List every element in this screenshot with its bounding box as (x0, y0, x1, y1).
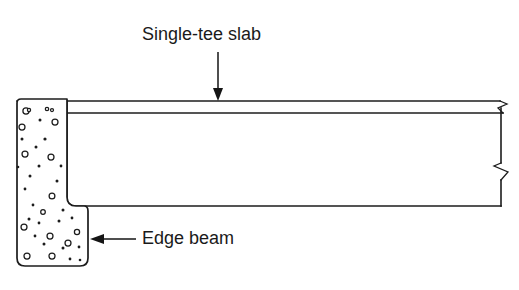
aggregate-dot (43, 137, 46, 140)
aggregate-ring (27, 108, 30, 111)
diagram-canvas: Single-tee slab Edge beam (0, 0, 519, 290)
aggregate-ring (48, 154, 54, 160)
break-kink-bottom (494, 163, 508, 180)
aggregate-ring (45, 107, 48, 110)
aggregate-dot (62, 209, 65, 212)
aggregate-ring (41, 210, 46, 215)
aggregate-dot (34, 235, 37, 238)
label-edge-beam: Edge beam (142, 228, 234, 248)
slab-leader-annotation (213, 52, 223, 101)
break-kink-top (498, 101, 507, 113)
label-single-tee-slab: Single-tee slab (142, 24, 261, 44)
aggregate-ring (47, 233, 53, 239)
aggregate-dot (78, 246, 81, 249)
slab-web-and-soffit-line (67, 101, 501, 206)
aggregate-dot (24, 188, 27, 191)
aggregate-ring (65, 240, 71, 246)
aggregate-dot (60, 165, 63, 168)
aggregate-ring (22, 151, 28, 157)
beam-leader-annotation (90, 234, 136, 244)
aggregate-dot (39, 119, 42, 122)
aggregate-ring (21, 224, 27, 230)
arrow-left-icon (90, 234, 104, 244)
break-symbol-lower (494, 163, 508, 180)
single-tee-slab-outline (17, 101, 503, 206)
aggregate-dot (38, 165, 41, 168)
aggregate-ring (49, 193, 55, 199)
arrow-down-icon (213, 88, 223, 101)
aggregate-dot (69, 258, 72, 261)
aggregate-ring (49, 253, 55, 259)
aggregate-dot (29, 175, 32, 178)
aggregate-ring (52, 119, 58, 125)
aggregate-ring (74, 229, 79, 234)
aggregate-dot (17, 166, 20, 169)
aggregate-ring (19, 124, 25, 130)
break-symbol-upper (498, 101, 507, 113)
aggregate-dot (43, 243, 46, 246)
aggregate-ring (51, 109, 54, 112)
aggregate-ring (24, 253, 30, 259)
aggregate-dot (62, 247, 65, 250)
aggregate-dot (79, 259, 82, 262)
aggregate-dot (71, 217, 74, 220)
aggregate-dot (28, 218, 31, 221)
aggregate-dot (58, 220, 61, 223)
aggregate-dot (32, 204, 35, 207)
aggregate-dot (38, 222, 41, 225)
aggregate-dot (35, 146, 38, 149)
aggregate-dot (21, 138, 24, 141)
aggregate-dot (56, 180, 59, 183)
